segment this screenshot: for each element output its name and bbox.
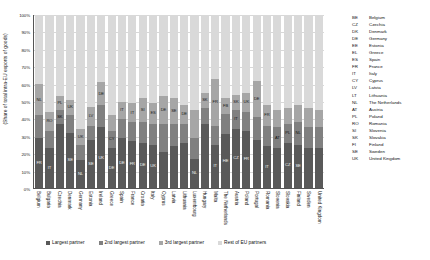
bar-column[interactable]: DE (180, 15, 188, 188)
x-axis-tick-label: Greece (108, 191, 113, 206)
bar-column[interactable] (315, 15, 323, 188)
segment-partner-code: IT (213, 164, 216, 168)
bar-segment-s3: PL (56, 96, 64, 110)
bar-column[interactable]: FBHE (221, 15, 229, 188)
bar-column[interactable]: SKITCZ (232, 15, 240, 188)
bar-column[interactable]: FRIT (211, 15, 219, 188)
country-key-name: Poland (369, 113, 428, 120)
bar-segment-s1: FR (128, 141, 136, 188)
bar-segment-s1 (159, 152, 167, 188)
bar-segment-s4 (180, 15, 188, 105)
bar-segment-s3: UK (76, 129, 84, 145)
country-key-code: ES (352, 56, 369, 63)
y-axis-tick: 100% (19, 13, 30, 18)
country-key-row: ELGreece (352, 49, 428, 56)
x-axis-tick: Spain (117, 190, 125, 238)
country-key-row: NLThe Netherlands (352, 99, 428, 106)
bar-column[interactable] (304, 15, 312, 188)
segment-partner-code: DE (254, 97, 260, 101)
bar-segment-s3: UK (66, 100, 74, 116)
bar-segment-s4 (190, 15, 198, 110)
bar-column[interactable]: DE (159, 15, 167, 188)
country-key-row: LVLatvia (352, 84, 428, 91)
country-key-row: CYCyprus (352, 77, 428, 84)
legend-item[interactable]: Rest of EU partners (218, 240, 266, 245)
country-key-name: United Kingdom (369, 155, 428, 162)
bar-column[interactable]: SK (201, 15, 209, 188)
bar-segment-s2: CY (108, 131, 116, 148)
bar-segment-s3: LV (87, 107, 95, 126)
segment-partner-code: NL (37, 98, 42, 102)
bar-segment-s2: IT (232, 110, 240, 129)
bar-segment-s1: SE (66, 133, 74, 188)
y-axis-tick: 70% (22, 65, 31, 70)
bar-column[interactable]: DE (253, 15, 261, 188)
x-axis-tick: Bulgaria (44, 190, 52, 238)
bar-column[interactable]: LVSE (87, 15, 95, 188)
bar-column[interactable]: UKFR (242, 15, 250, 188)
y-axis-tick: 80% (22, 47, 31, 52)
bar-segment-s4 (294, 15, 302, 105)
country-key-code: UK (352, 155, 369, 162)
segment-partner-code: ES (150, 111, 155, 115)
bar-segment-s3: SE (170, 98, 178, 124)
x-axis-tick: Finland (294, 190, 302, 238)
bar-column[interactable]: SIDE (139, 15, 147, 188)
x-axis-tick: Poland (242, 190, 250, 238)
bar-segment-s4 (139, 15, 147, 98)
legend-item[interactable]: Largest partner (46, 240, 85, 245)
x-axis-tick: Denmark (65, 190, 73, 238)
bar-segment-s4 (211, 15, 219, 79)
x-axis-tick-label: Romania (264, 191, 269, 209)
y-axis-title: (Share of total intra-EU exports of good… (2, 4, 8, 154)
bar-segment-s4 (273, 15, 281, 110)
bar-column[interactable]: NLSE (294, 15, 302, 188)
bar-column[interactable]: ITFR (128, 15, 136, 188)
bar-segment-s1: HE (221, 134, 229, 188)
legend-item[interactable]: 2nd largest partner (99, 240, 145, 245)
segment-partner-code: NL (78, 172, 83, 176)
bar-segment-s4 (35, 15, 43, 84)
bar-segment-s1: UK (97, 127, 105, 188)
y-axis-tick: 10% (22, 169, 31, 174)
bar-column[interactable]: UKSE (66, 15, 74, 188)
country-code-key: BEBelgiumCZCzechiaDKDenmarkDEGermanyEEEs… (352, 14, 428, 162)
bar-segment-s4 (242, 15, 250, 93)
series-legend: Largest partner2nd largest partner3rd la… (46, 240, 336, 245)
segment-partner-code: SE (68, 158, 73, 162)
bar-column[interactable]: ROIT (45, 15, 53, 188)
bar-column[interactable]: PLSK (56, 15, 64, 188)
bar-column[interactable]: NLFR (35, 15, 43, 188)
country-key-name: Slovenia (369, 127, 428, 134)
bar-column[interactable]: AT (273, 15, 281, 188)
x-axis-tick: Latvia (169, 190, 177, 238)
bar-column[interactable]: UKNL (76, 15, 84, 188)
bar-column[interactable]: FRIT (263, 15, 271, 188)
segment-partner-code: UK (244, 100, 250, 104)
segment-partner-code: SE (88, 162, 93, 166)
bar-column[interactable]: SE (170, 15, 178, 188)
x-axis-tick: Greece (107, 190, 115, 238)
country-key-name: The Netherlands (369, 99, 428, 106)
bar-column[interactable]: PLCZ (284, 15, 292, 188)
bar-segment-s1: FR (242, 131, 250, 188)
x-axis-tick: Italy (148, 190, 156, 238)
bar-column[interactable]: DEUK (97, 15, 105, 188)
bar-column[interactable]: NL (190, 15, 198, 188)
bar-segment-s1 (201, 124, 209, 188)
bar-segment-s2 (159, 124, 167, 152)
segment-partner-code: IT (234, 117, 237, 121)
x-axis-tick-label: Bulgaria (46, 191, 51, 208)
bar-segment-s1: IT (211, 145, 219, 188)
country-key-code: IT (352, 70, 369, 77)
bar-segment-s2 (242, 112, 250, 131)
x-axis-tick-label: Estonia (88, 191, 93, 206)
legend-item[interactable]: 3rd largest partner (159, 240, 204, 245)
bar-column[interactable]: CYDE (108, 15, 116, 188)
bar-segment-s3 (315, 110, 323, 127)
x-axis-tick-label: The Netherlands (223, 191, 228, 225)
chart-page: 100%90%80%70%60%50%40%30%20%10%0% (Share… (0, 0, 430, 260)
segment-partner-code: NL (296, 131, 301, 135)
bar-column[interactable]: ESUK (149, 15, 157, 188)
bar-column[interactable]: ITDE (118, 15, 126, 188)
